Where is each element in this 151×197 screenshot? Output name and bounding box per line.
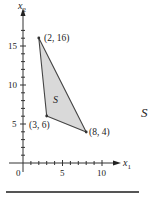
y-axis-label: x2	[17, 0, 26, 14]
x-axis-label: x1	[122, 157, 131, 171]
y-tick-label-10: 10	[8, 80, 18, 90]
x-tick-label-10: 10	[97, 168, 107, 178]
vertex-marker	[85, 131, 88, 134]
side-s-label: S	[141, 105, 148, 120]
vertex-marker	[37, 37, 40, 40]
bottom-rule	[6, 191, 139, 193]
origin-label: 0	[16, 168, 21, 178]
y-tick-label-15: 15	[8, 41, 18, 51]
x-tick-label-5: 5	[60, 168, 65, 178]
chart-figure: x2 x1 15 10 5 0 5 10 (2, 16) (3, 6) (8, …	[0, 0, 151, 197]
point-label-8-4: (8, 4)	[89, 127, 110, 138]
point-label-2-16: (2, 16)	[44, 33, 69, 44]
vertex-marker	[45, 115, 48, 118]
y-tick-label-5: 5	[12, 119, 17, 129]
region-s-polygon	[39, 38, 86, 132]
x-axis-arrow-icon	[113, 161, 121, 166]
point-label-3-6: (3, 6)	[29, 120, 50, 131]
region-s-label: S	[53, 94, 58, 105]
